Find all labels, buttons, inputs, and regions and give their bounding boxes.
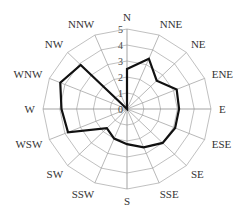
direction-label-ne: NE <box>191 38 206 50</box>
direction-label-nnw: NNW <box>68 18 95 30</box>
tick-label: 4 <box>118 40 123 51</box>
direction-label-sse: SSE <box>160 188 179 200</box>
direction-label-se: SE <box>191 168 204 180</box>
direction-label-ene: ENE <box>212 68 234 80</box>
wind-rose-chart: 012345 NNNENEENEEESESESSESSSWSWWSWWWNWNW… <box>0 0 241 219</box>
direction-label-e: E <box>219 103 226 115</box>
tick-label: 1 <box>118 88 123 99</box>
direction-label-wsw: WSW <box>15 138 43 150</box>
direction-label-nw: NW <box>45 38 64 50</box>
direction-label-sw: SW <box>47 168 64 180</box>
direction-label-n: N <box>123 11 131 23</box>
direction-label-wnw: WNW <box>14 68 43 80</box>
tick-label: 2 <box>118 72 123 83</box>
direction-label-nne: NNE <box>160 18 183 30</box>
direction-label-s: S <box>124 195 130 207</box>
spoke-sw <box>68 109 127 166</box>
tick-label: 5 <box>118 24 123 35</box>
direction-label-w: W <box>25 103 36 115</box>
direction-label-ese: ESE <box>212 138 232 150</box>
direction-label-ssw: SSW <box>72 188 95 200</box>
tick-label: 3 <box>118 56 123 67</box>
